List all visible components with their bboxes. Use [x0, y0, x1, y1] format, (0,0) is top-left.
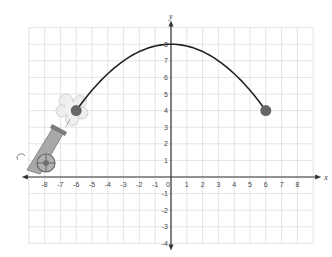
cannonball-point	[71, 105, 82, 116]
x-tick-label: -6	[73, 181, 79, 188]
chart: xy -8-7-6-5-4-3-2-1012345678-4-3-2-11234…	[0, 0, 332, 257]
y-tick-label: 2	[164, 140, 168, 147]
x-tick-label: 3	[216, 181, 220, 188]
x-tick-label: -4	[105, 181, 111, 188]
x-tick-label: 5	[248, 181, 252, 188]
y-tick-label: 3	[164, 124, 168, 131]
y-axis-arrow-icon	[169, 21, 174, 27]
y-tick-label: 7	[164, 57, 168, 64]
x-tick-label: -5	[89, 181, 95, 188]
x-tick-label: 4	[232, 181, 236, 188]
x-tick-label: 6	[264, 181, 268, 188]
y-tick-label: 6	[164, 74, 168, 81]
x-tick-label: -3	[120, 181, 126, 188]
y-axis-label: y	[168, 12, 173, 21]
cannonball-point	[260, 105, 271, 116]
x-tick-label: 0	[166, 181, 170, 188]
x-tick-label: -8	[41, 181, 47, 188]
axes: xy	[22, 12, 328, 251]
x-tick-label: 1	[185, 181, 189, 188]
y-tick-label: 5	[164, 91, 168, 98]
y-tick-label: -2	[162, 207, 168, 214]
y-tick-label: 1	[164, 157, 168, 164]
y-tick-label: -3	[162, 223, 168, 230]
x-tick-label: -1	[152, 181, 158, 188]
x-tick-label: 8	[295, 181, 299, 188]
x-axis-arrow-icon	[315, 175, 321, 180]
x-axis-label: x	[323, 173, 328, 182]
x-tick-label: -7	[57, 181, 63, 188]
cannon-icon	[17, 124, 67, 174]
x-tick-label: -2	[136, 181, 142, 188]
x-tick-label: 7	[280, 181, 284, 188]
x-tick-label: 2	[201, 181, 205, 188]
y-tick-label: 4	[164, 107, 168, 114]
y-axis-arrow-down-icon	[169, 244, 174, 250]
y-tick-label: -1	[162, 190, 168, 197]
x-axis-arrow-left-icon	[22, 175, 28, 180]
y-tick-label: -4	[162, 240, 168, 247]
